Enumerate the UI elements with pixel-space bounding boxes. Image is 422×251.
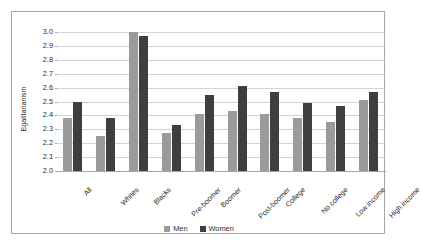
x-axis-category-label: No college [320, 186, 349, 215]
bar-men-college [260, 114, 269, 171]
bar-women-college [270, 92, 279, 171]
legend-swatch-icon [200, 226, 206, 232]
legend-entry: Women [200, 224, 234, 233]
bar-men-blacks [129, 32, 138, 171]
bar-men-boomer [195, 114, 204, 171]
y-axis-tick-label: 2.9 [43, 42, 53, 49]
bar-men-all [63, 118, 72, 171]
bar-men-pre-boomer [162, 133, 171, 171]
bar-women-no-college [303, 103, 312, 171]
bar-group [222, 32, 255, 182]
bar-women-blacks [139, 36, 148, 171]
bar-women-post-boomer [238, 86, 247, 171]
x-axis-category-label: Pre-boomer [190, 186, 222, 218]
x-axis-category-label: Blacks [152, 186, 172, 206]
x-axis-category-label: High income [388, 186, 421, 219]
y-axis-tick-label: 2.0 [43, 167, 53, 174]
chart-frame: Egalitarianism 3.02.92.82.72.62.52.42.32… [11, 11, 385, 234]
y-axis-tick-label: 2.1 [43, 153, 53, 160]
bar-women-high-income [369, 92, 378, 171]
bar-men-high-income [359, 100, 368, 171]
legend-label: Women [209, 224, 234, 233]
x-axis-category-label: Boomer [219, 186, 242, 209]
y-axis-tick-label: 2.7 [43, 70, 53, 77]
bar-group [353, 32, 386, 182]
legend-swatch-icon [164, 226, 170, 232]
bar-men-post-boomer [228, 111, 237, 171]
bar-group [156, 32, 189, 182]
y-axis-tick-label: 2.4 [43, 112, 53, 119]
bar-group [287, 32, 320, 182]
bar-men-no-college [293, 118, 302, 171]
x-axis-category-label: Low income [354, 186, 386, 218]
bar-group [320, 32, 353, 182]
bar-group [57, 32, 90, 182]
bar-women-low-income [336, 106, 345, 171]
bar-women-boomer [205, 95, 214, 171]
legend: MenWomen [12, 224, 386, 233]
y-axis-tick-label: 2.3 [43, 126, 53, 133]
bar-men-whites [96, 136, 105, 171]
bar-group [189, 32, 222, 182]
bar-group [123, 32, 156, 182]
y-axis-tick-label: 2.5 [43, 98, 53, 105]
bar-group [90, 32, 123, 182]
bar-women-all [73, 102, 82, 172]
x-axis-category-label: Whites [119, 186, 140, 207]
bar-women-pre-boomer [172, 125, 181, 171]
y-axis-tick-label: 2.2 [43, 139, 53, 146]
y-axis-tick-label: 2.8 [43, 56, 53, 63]
plot-area: 3.02.92.82.72.62.52.42.32.22.12.0 AllWhi… [57, 32, 386, 182]
x-axis-category-label: All [82, 186, 93, 197]
bar-men-low-income [326, 122, 335, 171]
y-axis-tick-label: 3.0 [43, 28, 53, 35]
y-axis-title: Egalitarianism [19, 86, 28, 131]
bar-group [254, 32, 287, 182]
bar-women-whites [106, 118, 115, 171]
legend-label: Men [173, 224, 187, 233]
legend-entry: Men [164, 224, 187, 233]
y-axis-tick-label: 2.6 [43, 84, 53, 91]
bar-series-container: AllWhitesBlacksPre-boomerBoomerPost-boom… [57, 32, 386, 182]
